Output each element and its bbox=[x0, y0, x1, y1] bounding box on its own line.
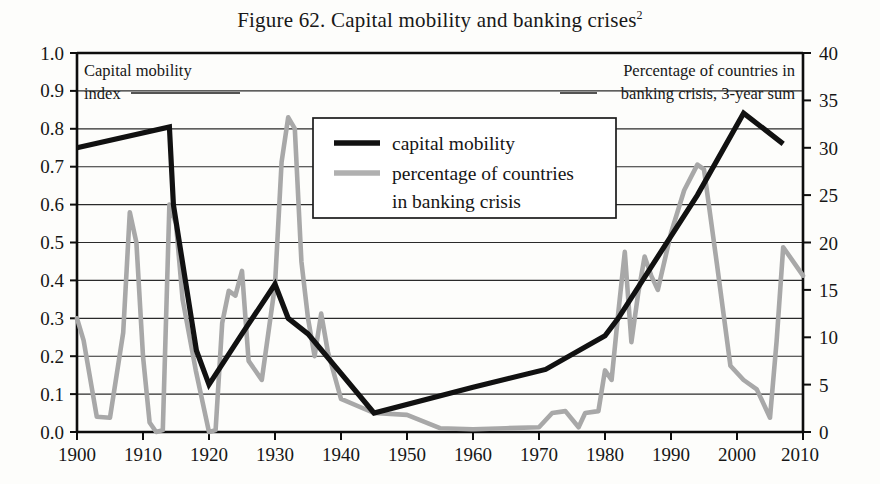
y-right-label-25: 25 bbox=[819, 185, 838, 206]
annotation-left-line2: index bbox=[84, 84, 121, 103]
y-left-label-4: 0.4 bbox=[40, 270, 64, 291]
y-right-label-30: 30 bbox=[819, 138, 838, 159]
x-label-1910: 1910 bbox=[124, 444, 162, 465]
annotation-right-line2: banking crisis, 3-year sum bbox=[621, 84, 795, 103]
y-left-label-6: 0.6 bbox=[40, 194, 64, 215]
y-right-label-35: 35 bbox=[819, 90, 838, 111]
legend: capital mobility percentage of countries… bbox=[313, 118, 616, 218]
legend-label-capital-mobility: capital mobility bbox=[392, 133, 515, 154]
y-left-label-1: 0.1 bbox=[40, 384, 64, 405]
y-right-label-40: 40 bbox=[819, 43, 838, 64]
y-left-label-8: 0.8 bbox=[40, 118, 64, 139]
y-right-label-10: 10 bbox=[819, 327, 838, 348]
annotation-right-group: Percentage of countries in banking crisi… bbox=[560, 61, 795, 103]
y-left-label-2: 0.2 bbox=[40, 346, 64, 367]
y-right-tick-labels: 0 5 10 15 20 25 30 35 40 bbox=[819, 43, 838, 443]
y-right-label-0: 0 bbox=[819, 422, 829, 443]
y-right-label-15: 15 bbox=[819, 280, 838, 301]
y-left-label-7: 0.7 bbox=[40, 156, 64, 177]
x-tick-labels: 1900 1910 1920 1930 1940 1950 1960 1970 … bbox=[58, 444, 819, 465]
x-label-1930: 1930 bbox=[256, 444, 294, 465]
figure-container: Figure 62. Capital mobility and banking … bbox=[0, 0, 880, 484]
annotation-left-line1: Capital mobility bbox=[84, 61, 192, 80]
legend-label-banking-crisis-line2: in banking crisis bbox=[392, 191, 521, 212]
annotation-right-line1: Percentage of countries in bbox=[623, 61, 795, 80]
x-label-1950: 1950 bbox=[388, 444, 426, 465]
x-label-1970: 1970 bbox=[520, 444, 558, 465]
x-label-1900: 1900 bbox=[58, 444, 96, 465]
annotation-left-group: Capital mobility index bbox=[84, 61, 240, 103]
x-label-2000: 2000 bbox=[718, 444, 756, 465]
x-label-1960: 1960 bbox=[454, 444, 492, 465]
y-left-label-10: 1.0 bbox=[40, 43, 64, 64]
y-left-label-5: 0.5 bbox=[40, 232, 64, 253]
x-label-1980: 1980 bbox=[586, 444, 624, 465]
y-right-label-20: 20 bbox=[819, 233, 838, 254]
y-right-label-5: 5 bbox=[819, 375, 829, 396]
x-label-1940: 1940 bbox=[322, 444, 360, 465]
x-label-1990: 1990 bbox=[652, 444, 690, 465]
chart-plot-area: 0.0 0.1 0.2 0.3 0.4 0.5 0.6 0.7 0.8 0.9 … bbox=[0, 0, 880, 484]
y-left-label-9: 0.9 bbox=[40, 80, 64, 101]
legend-label-banking-crisis-line1: percentage of countries bbox=[392, 163, 574, 184]
x-label-2010: 2010 bbox=[781, 444, 819, 465]
y-left-label-3: 0.3 bbox=[40, 308, 64, 329]
y-left-label-0: 0.0 bbox=[40, 422, 64, 443]
x-label-1920: 1920 bbox=[190, 444, 228, 465]
y-left-tick-labels: 0.0 0.1 0.2 0.3 0.4 0.5 0.6 0.7 0.8 0.9 … bbox=[40, 43, 64, 443]
